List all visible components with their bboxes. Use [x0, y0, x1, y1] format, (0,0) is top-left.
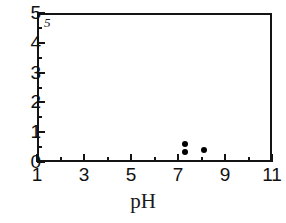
data-point: [182, 141, 188, 147]
scatter-chart: 5 012345 1357911 pH: [0, 0, 286, 223]
x-axis-title: pH: [0, 190, 286, 212]
x-tick-label: 3: [64, 165, 104, 184]
x-tick-label: 7: [158, 165, 198, 184]
x-tick-label: 5: [111, 165, 151, 184]
x-tick-label: 9: [205, 165, 245, 184]
x-tick-label: 11: [252, 165, 286, 184]
plot-area: [37, 13, 272, 162]
data-point: [182, 149, 188, 155]
y-tick-label: 5: [1, 3, 41, 22]
data-point: [201, 147, 207, 153]
y-tick-label: 3: [1, 63, 41, 82]
x-tick-label: 1: [17, 165, 57, 184]
y-tick-label: 2: [1, 92, 41, 111]
y-tick-label: 1: [1, 122, 41, 141]
y-tick-label: 4: [1, 33, 41, 52]
